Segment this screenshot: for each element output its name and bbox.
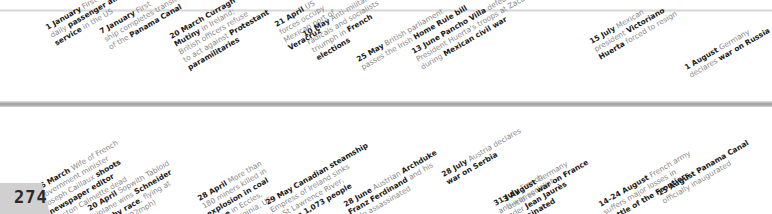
page-number: 274	[14, 187, 48, 207]
pin-stem	[0, 108, 772, 140]
timeline-bar	[0, 101, 772, 107]
